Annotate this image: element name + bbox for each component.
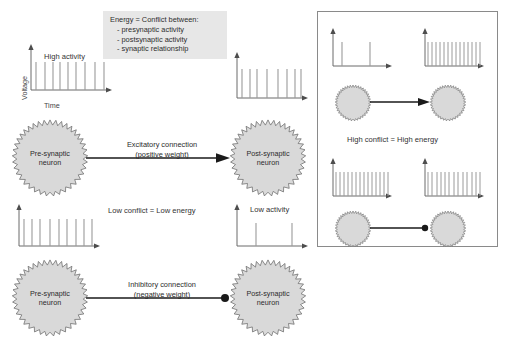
panel-connection-row1-excitatory [370, 97, 432, 107]
connection-label-inhibitory: Inhibitory connection (negative weight) [110, 280, 214, 300]
legend-item-presynaptic: - presynaptic activity [110, 25, 221, 35]
diagram-canvas: Energy = Conflict between: - presynaptic… [0, 0, 509, 337]
inhibitory-ball-icon [422, 225, 428, 231]
energy-definition-legend: Energy = Conflict between: - presynaptic… [103, 11, 227, 59]
panel-plot-row1-post [420, 28, 492, 76]
starburst-shape [230, 120, 305, 196]
starburst-shape [430, 211, 466, 247]
neuron-post-synaptic-row2: Post-synaptic neuron [232, 262, 304, 334]
panel-connection-row2-inhibitory [370, 223, 432, 233]
panel-plot-row2-pre [328, 158, 400, 206]
starburst-shape [335, 85, 371, 121]
starburst-shape [230, 260, 305, 336]
connection-label-line1: Inhibitory connection [110, 280, 214, 290]
panel-plot-row2-post [420, 158, 492, 206]
legend-item-synaptic-relationship: - synaptic relationship [110, 44, 221, 54]
left-conclusion-text: Low conflict = Low energy [108, 206, 196, 215]
connection-label-line2: (positive weight) [110, 150, 214, 160]
neuron-post-synaptic-row1: Post-synaptic neuron [232, 122, 304, 194]
panel-neuron-row1-post [431, 86, 465, 120]
starburst-shape [335, 211, 371, 247]
starburst-shape [12, 260, 87, 336]
starburst-shape [430, 85, 466, 121]
inhibitory-ball-icon [221, 294, 229, 302]
arrowhead-icon [418, 98, 430, 106]
legend-title: Energy = Conflict between: [110, 15, 221, 25]
arrowhead-icon [216, 153, 230, 163]
plot-post-low-activity [232, 204, 314, 256]
panel-neuron-row2-pre [336, 212, 370, 246]
plot-pre-row2 [14, 204, 106, 256]
panel-neuron-row1-pre [336, 86, 370, 120]
neuron-pre-synaptic-row1: Pre-synaptic neuron [14, 122, 86, 194]
connection-label-excitatory: Excitatory connection (positive weight) [110, 140, 214, 160]
connection-label-line2: (negative weight) [110, 290, 214, 300]
plot-post-row1 [232, 52, 314, 108]
connection-label-line1: Excitatory connection [110, 140, 214, 150]
x-axis-label-time: Time [44, 101, 60, 110]
legend-item-postsynaptic: - postsynaptic activity [110, 35, 221, 45]
right-conclusion-text: High conflict = High energy [347, 135, 438, 144]
starburst-shape [12, 120, 87, 196]
panel-plot-row1-pre [328, 28, 400, 76]
plot-pre-high-activity [26, 44, 116, 100]
panel-neuron-row2-post [431, 212, 465, 246]
neuron-pre-synaptic-row2: Pre-synaptic neuron [14, 262, 86, 334]
